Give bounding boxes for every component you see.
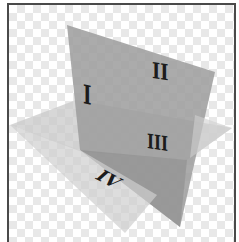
quadrant-label-iii: III: [147, 129, 168, 156]
quadrant-label-i: I: [83, 79, 92, 111]
horizontal-plane-right: [190, 115, 232, 158]
quadrant-label-ii: II: [152, 57, 168, 86]
quadrant-planes-diagram: I II III IV: [0, 0, 239, 242]
